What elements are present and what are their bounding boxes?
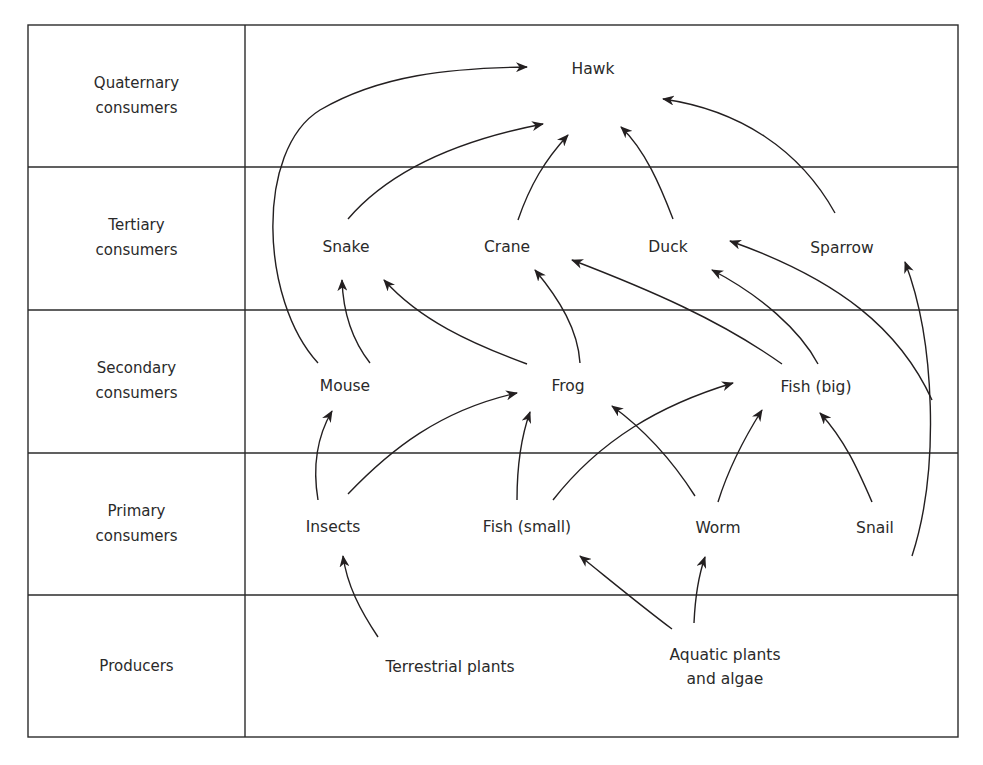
node-fish-big: Fish (big) (781, 375, 852, 399)
level-label-primary: Primary consumers (28, 499, 245, 549)
arrow-snail-to-fishbig (820, 413, 872, 502)
arrow-insects-to-frog (348, 393, 517, 494)
level-label-line: Tertiary (28, 213, 245, 238)
arrow-duck-to-hawk (621, 127, 673, 219)
arrow-frog-to-crane (535, 270, 580, 363)
node-crane: Crane (484, 235, 530, 259)
level-label-tertiary: Tertiary consumers (28, 213, 245, 263)
level-label-line: consumers (28, 524, 245, 549)
arrow-aquatic-to-worm (694, 557, 705, 623)
arrow-worm-to-frog (612, 406, 695, 496)
arrow-crane-to-hawk (518, 135, 568, 220)
node-label-line: and algae (670, 667, 781, 691)
node-hawk: Hawk (572, 57, 615, 81)
level-label-line: Primary (28, 499, 245, 524)
arrow-terrestrial-to-insects (343, 556, 378, 637)
arrow-fishbig-to-crane (572, 260, 782, 364)
level-label-line: consumers (28, 238, 245, 263)
level-label-line: consumers (28, 96, 245, 121)
level-label-secondary: Secondary consumers (28, 356, 245, 406)
food-web-diagram: Quaternary consumers Tertiary consumers … (0, 0, 983, 765)
node-terrestrial-plants: Terrestrial plants (385, 655, 514, 679)
node-duck: Duck (648, 235, 687, 259)
node-frog: Frog (551, 374, 584, 398)
node-snake: Snake (322, 235, 369, 259)
node-mouse: Mouse (320, 374, 370, 398)
node-aquatic-plants-and-algae: Aquatic plants and algae (670, 643, 781, 691)
level-label-producers: Producers (28, 654, 245, 679)
arrow-mouse-to-hawk (273, 67, 527, 363)
arrow-mouse-to-snake (342, 280, 370, 363)
level-label-line: Quaternary (28, 71, 245, 96)
feeding-arrows (273, 67, 932, 637)
level-label-line: consumers (28, 381, 245, 406)
node-fish-small: Fish (small) (483, 515, 571, 539)
node-insects: Insects (306, 515, 361, 539)
arrow-worm-to-fishbig (718, 410, 762, 502)
arrow-fishbig-to-duck (712, 270, 818, 364)
node-worm: Worm (695, 516, 740, 540)
node-snail: Snail (856, 516, 894, 540)
arrow-frog-to-snake (384, 280, 527, 364)
node-sparrow: Sparrow (810, 236, 873, 260)
arrow-snake-to-hawk (348, 124, 543, 219)
arrow-fishsmall-to-fishbig (553, 383, 733, 500)
level-label-line: Secondary (28, 356, 245, 381)
arrow-snail-to-sparrow (905, 262, 930, 556)
node-label-line: Aquatic plants (670, 643, 781, 667)
level-label-quaternary: Quaternary consumers (28, 71, 245, 121)
arrow-aquatic-to-fishsmall (580, 556, 672, 629)
arrow-insects-to-mouse (316, 411, 332, 500)
level-label-line: Producers (28, 654, 245, 679)
arrow-fishsmall-to-frog (517, 412, 530, 500)
arrow-sparrow-to-hawk (663, 99, 835, 213)
